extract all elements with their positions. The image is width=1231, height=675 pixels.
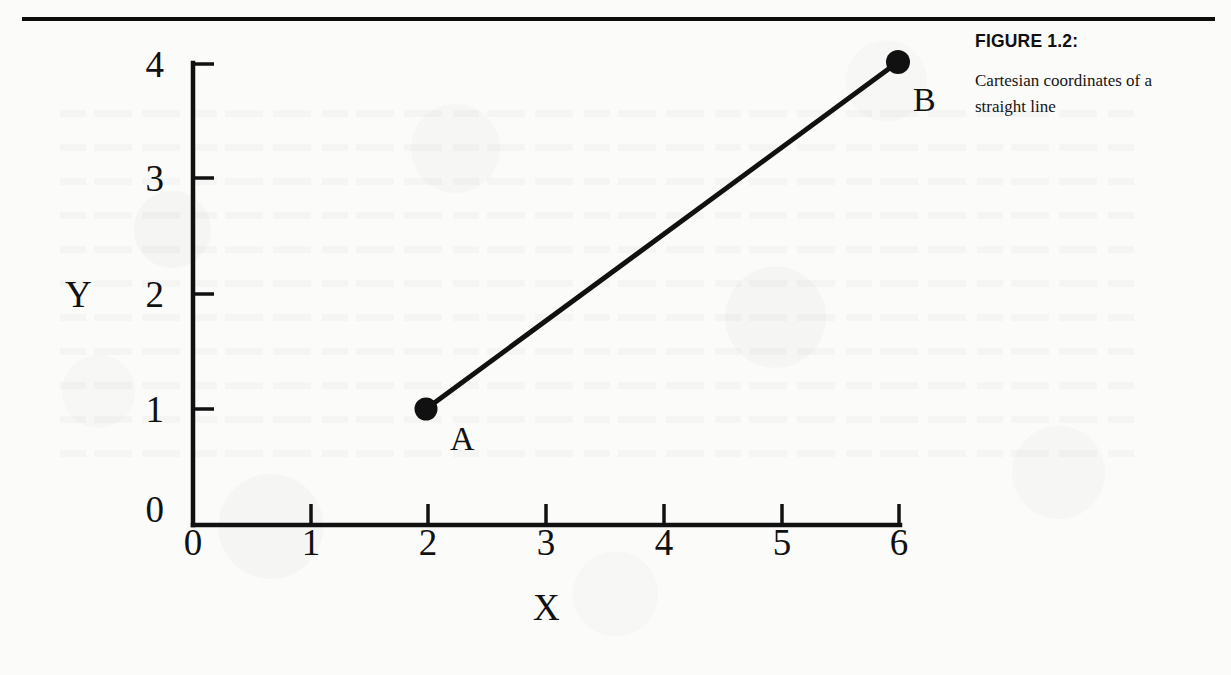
x-axis-tick-label-6: 6: [890, 524, 909, 561]
y-axis-tick-label-2: 2: [130, 276, 164, 313]
x-axis-title: X: [533, 589, 560, 626]
data-line-ab: [426, 62, 898, 409]
figure-caption-title: FIGURE 1.2:: [975, 31, 1190, 52]
data-point-a: [415, 398, 438, 421]
data-point-label-a: A: [450, 422, 475, 456]
figure-caption: FIGURE 1.2: Cartesian coordinates of a s…: [975, 31, 1190, 120]
x-axis-tick-label-3: 3: [537, 524, 556, 561]
data-point-b: [886, 50, 910, 74]
data-point-label-b: B: [913, 83, 936, 117]
y-axis-tick-label-1: 1: [130, 391, 164, 428]
x-axis-tick-label-1: 1: [302, 524, 321, 561]
y-axis-title: Y: [65, 276, 92, 313]
y-axis-tick-label-4: 4: [130, 46, 164, 83]
x-axis-tick-label-2: 2: [419, 524, 438, 561]
x-axis-tick-label-5: 5: [773, 524, 792, 561]
x-axis-tick-label-4: 4: [655, 524, 674, 561]
x-axis-tick-label-0: 0: [184, 524, 203, 561]
y-axis-tick-label-0: 0: [130, 491, 164, 528]
y-axis-tick-label-3: 3: [130, 160, 164, 197]
figure-caption-body: Cartesian coordinates of a straight line: [975, 68, 1190, 120]
